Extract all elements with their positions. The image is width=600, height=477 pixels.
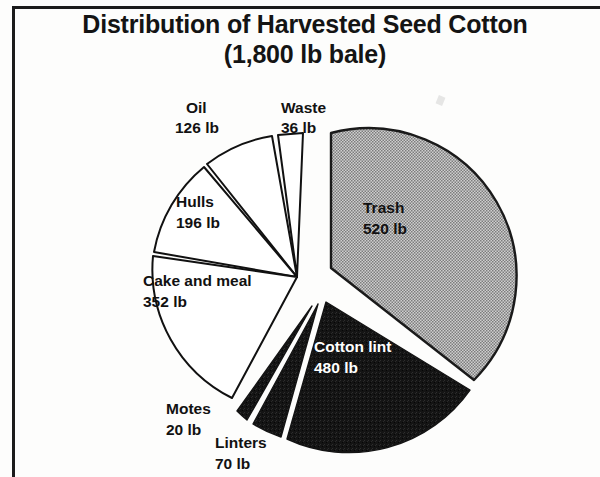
label-hulls-name: Hulls (176, 193, 214, 210)
label-linters-amount: 70 lb (215, 455, 250, 472)
label-trash-amount: 520 lb (363, 220, 407, 237)
figure-panel: Distribution of Harvested Seed Cotton (1… (0, 0, 600, 477)
label-cake-and-meal-amount: 352 lb (143, 293, 187, 310)
label-cotton-lint-amount: 480 lb (314, 359, 358, 376)
label-motes-name: Motes (166, 400, 211, 417)
pie-chart: Oil 126 lb Waste 36 lb Hulls 196 lb Cake… (0, 0, 600, 477)
label-motes-amount: 20 lb (166, 421, 201, 438)
label-motes: Motes 20 lb (166, 400, 211, 438)
label-linters-name: Linters (215, 434, 267, 451)
label-cake-and-meal-name: Cake and meal (143, 272, 252, 289)
label-waste: Waste 36 lb (281, 99, 326, 136)
label-oil: Oil 126 lb (175, 99, 219, 136)
label-linters: Linters 70 lb (215, 434, 267, 472)
label-oil-amount: 126 lb (175, 119, 219, 136)
label-waste-name: Waste (281, 99, 326, 116)
label-hulls-amount: 196 lb (176, 214, 220, 231)
label-trash-name: Trash (363, 199, 404, 216)
label-cotton-lint-name: Cotton lint (314, 338, 391, 355)
label-waste-amount: 36 lb (281, 119, 316, 136)
label-oil-name: Oil (186, 99, 207, 116)
